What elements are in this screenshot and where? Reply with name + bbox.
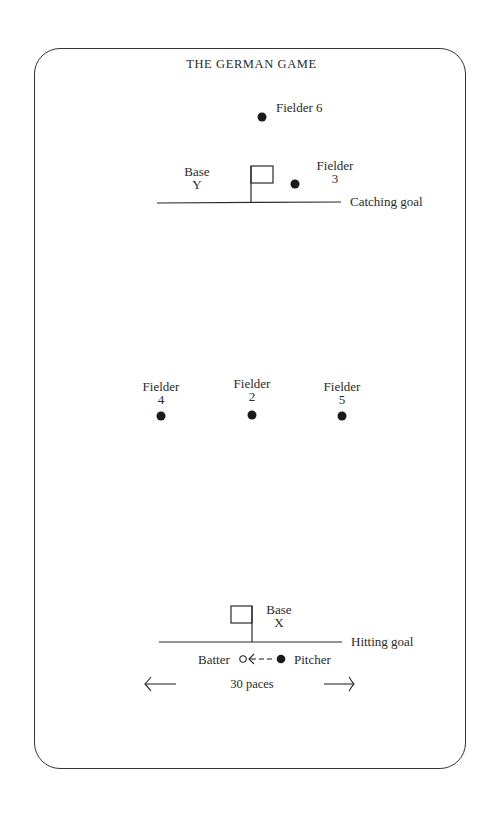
- pitcher-label: Pitcher: [294, 653, 331, 666]
- fielder-3-label: Fielder 3: [312, 159, 358, 185]
- pitch-arrow-icon: [249, 654, 272, 664]
- fielder-5-dot: [338, 412, 347, 421]
- fielder-3-dot: [291, 180, 300, 189]
- batter-circle-icon: [240, 656, 246, 662]
- fielder-6-dot: [258, 113, 267, 122]
- fielder-5-label: Fielder 5: [319, 380, 365, 406]
- base-y-label: Base Y: [178, 165, 216, 191]
- fielder-2-label: Fielder 2: [229, 377, 275, 403]
- right-arrow-icon: [324, 677, 354, 691]
- base-y-flag-icon: [251, 166, 273, 203]
- fielder-4-dot: [157, 412, 166, 421]
- fielder-2-number: 2: [229, 390, 275, 403]
- fielder-4-number: 4: [138, 393, 184, 406]
- pitcher-dot: [277, 655, 286, 664]
- fielder-2-dot: [248, 411, 257, 420]
- fielder-5-number: 5: [319, 393, 365, 406]
- base-x-flag-icon: [231, 606, 252, 642]
- fielder-3-number: 3: [312, 172, 358, 185]
- catching-goal-line: [157, 202, 341, 203]
- base-x-label: Base X: [262, 603, 296, 629]
- field-diagram: [0, 0, 503, 818]
- left-arrow-icon: [145, 677, 176, 691]
- batter-label: Batter: [198, 653, 230, 666]
- fielder-6-label: Fielder 6: [276, 101, 323, 114]
- base-y-label-line2: Y: [178, 178, 216, 191]
- base-x-label-line2: X: [262, 616, 296, 629]
- hitting-goal-label: Hitting goal: [351, 635, 413, 648]
- fielder-4-label: Fielder 4: [138, 380, 184, 406]
- catching-goal-label: Catching goal: [350, 195, 423, 208]
- distance-label: 30 paces: [219, 678, 285, 691]
